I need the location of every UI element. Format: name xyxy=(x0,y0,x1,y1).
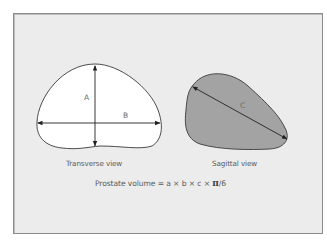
formula-suffix: /6 xyxy=(219,179,226,188)
prostate-diagram xyxy=(0,0,327,247)
volume-formula: Prostate volume = a × b × c × π/6 xyxy=(95,178,226,188)
transverse-caption: Transverse view xyxy=(66,159,122,168)
sagittal-shape xyxy=(185,74,287,150)
formula-prefix: Prostate volume = a × b × c × xyxy=(95,179,212,188)
transverse-shape xyxy=(37,64,161,149)
label-c: C xyxy=(240,101,245,110)
label-b: B xyxy=(123,111,128,120)
label-a: A xyxy=(84,93,89,102)
sagittal-caption: Sagittal view xyxy=(212,159,257,168)
